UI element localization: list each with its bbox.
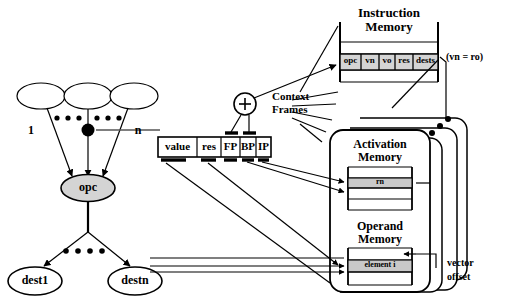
dest-node-n-label: destn bbox=[108, 274, 162, 287]
edge-frames-to-instrmem bbox=[300, 26, 338, 92]
vector-offset-label-line2: offset bbox=[447, 272, 470, 283]
diagram-canvas: Instruction Memory opc vn vo res dests (… bbox=[0, 0, 508, 302]
dest-node-1-label: dest1 bbox=[8, 274, 62, 287]
operand-memory-row-label: element i bbox=[348, 261, 412, 269]
input-label-i: i bbox=[81, 124, 95, 137]
edge-res-opmem bbox=[208, 163, 338, 265]
input-node-1 bbox=[17, 83, 65, 109]
instr-field-dests: dests bbox=[413, 56, 438, 66]
edge-opc-destn bbox=[88, 232, 130, 266]
instr-field-res: res bbox=[395, 56, 413, 66]
instr-field-vo: vo bbox=[379, 56, 395, 66]
context-frames-label-line1: Context bbox=[272, 91, 309, 103]
instruction-memory-title-line1: Instruction bbox=[340, 6, 438, 20]
input-node-n bbox=[110, 83, 158, 109]
edge-bp-adder bbox=[231, 115, 241, 132]
operand-memory-title-line2: Memory bbox=[334, 233, 426, 246]
operand-memory-title-line1: Operand bbox=[334, 220, 426, 233]
register-field-bp: BP bbox=[240, 141, 256, 153]
activation-memory-row-label: rn bbox=[348, 178, 412, 186]
activation-memory-title-line2: Memory bbox=[334, 151, 426, 164]
register-field-res: res bbox=[197, 141, 221, 153]
context-frames-label-line2: Frames bbox=[272, 104, 307, 116]
dest-ellipsis-dots bbox=[63, 248, 105, 254]
instr-field-opc: opc bbox=[340, 56, 361, 66]
instr-field-vn: vn bbox=[361, 56, 379, 66]
register-field-fp: FP bbox=[221, 141, 240, 153]
input-label-n: n bbox=[131, 124, 145, 137]
input-label-1: 1 bbox=[24, 124, 38, 137]
edge-value-opmem bbox=[166, 163, 330, 283]
register-field-value: value bbox=[158, 141, 197, 153]
vn-equals-ro-note: (vn = ro) bbox=[446, 52, 483, 63]
instruction-memory-title-line2: Memory bbox=[340, 20, 438, 34]
opcode-node-label: opc bbox=[61, 181, 115, 194]
input-node-i bbox=[64, 83, 112, 109]
activation-memory-title-line1: Activation bbox=[334, 138, 426, 151]
register-field-ip: IP bbox=[256, 141, 271, 153]
vector-offset-label-line1: vector bbox=[447, 258, 474, 269]
